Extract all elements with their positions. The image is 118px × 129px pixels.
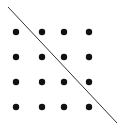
- grid-dot-r1-c2: [39, 29, 45, 35]
- grid-dot-r2-c2: [39, 54, 45, 60]
- grid-dot-r4-c3: [61, 104, 67, 110]
- grid-dot-r4-c1: [13, 104, 19, 110]
- grid-dot-r3-c3: [61, 79, 67, 85]
- grid-dot-r2-c3: [61, 54, 67, 60]
- grid-dot-r2-c1: [13, 54, 19, 60]
- grid-dot-r2-c4: [86, 54, 92, 60]
- grid-dot-r3-c4: [86, 79, 92, 85]
- grid-dot-r3-c2: [39, 79, 45, 85]
- grid-dot-r1-c4: [86, 29, 92, 35]
- grid-dot-r1-c3: [61, 29, 67, 35]
- grid-dot-r1-c1: [13, 29, 19, 35]
- dot-grid-diagram: [0, 0, 118, 129]
- grid-dot-r3-c1: [13, 79, 19, 85]
- grid-dot-r4-c2: [39, 104, 45, 110]
- grid-dot-r4-c4: [86, 104, 92, 110]
